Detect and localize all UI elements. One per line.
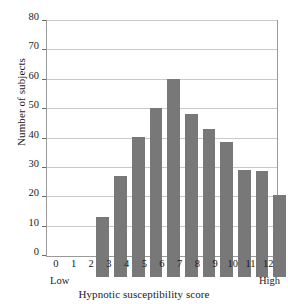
bar bbox=[185, 114, 198, 277]
bar bbox=[203, 129, 216, 277]
y-axis-tick: 70 bbox=[0, 49, 46, 50]
bar-slot bbox=[203, 42, 216, 277]
y-axis-tick-label: 30 bbox=[29, 159, 40, 170]
y-axis-tick-label: 10 bbox=[29, 218, 40, 229]
x-axis-tick-group: 0123456789101112 bbox=[47, 259, 277, 275]
y-axis-tick: 0 bbox=[0, 255, 46, 256]
bar bbox=[150, 108, 163, 277]
bar-slot bbox=[132, 42, 145, 277]
bar-slot bbox=[150, 42, 163, 277]
bar-slot bbox=[238, 42, 251, 277]
x-axis-tick-label: 3 bbox=[100, 259, 118, 270]
x-axis-anchor-low: Low bbox=[50, 275, 69, 286]
x-axis-tick-label: 7 bbox=[171, 259, 189, 270]
bar-slot bbox=[96, 42, 109, 277]
bar bbox=[132, 137, 145, 277]
x-axis-tick-label: 5 bbox=[135, 259, 153, 270]
bar-group bbox=[94, 42, 288, 277]
bar bbox=[220, 142, 233, 277]
x-axis-tick-label: 10 bbox=[224, 259, 242, 270]
bar-slot bbox=[273, 42, 286, 277]
y-axis-tick: 50 bbox=[0, 108, 46, 109]
y-axis-tick: 40 bbox=[0, 138, 46, 139]
y-axis-tick-label: 20 bbox=[29, 188, 40, 199]
bar bbox=[167, 79, 180, 277]
x-axis-anchor-high: High bbox=[259, 275, 280, 286]
bar-slot bbox=[185, 42, 198, 277]
bar-slot bbox=[220, 42, 233, 277]
y-axis-tick: 30 bbox=[0, 167, 46, 168]
x-axis-tick-label: 4 bbox=[118, 259, 136, 270]
y-axis-tick: 60 bbox=[0, 79, 46, 80]
x-axis-tick-label: 12 bbox=[259, 259, 277, 270]
y-axis-tick-label: 40 bbox=[29, 130, 40, 141]
x-axis-tick-label: 2 bbox=[82, 259, 100, 270]
y-axis-tick: 20 bbox=[0, 196, 46, 197]
y-axis-tick-label: 50 bbox=[29, 100, 40, 111]
x-axis-tick-label: 8 bbox=[189, 259, 207, 270]
x-axis-tick-label: 9 bbox=[206, 259, 224, 270]
x-axis-tick-label: 6 bbox=[153, 259, 171, 270]
plot-area bbox=[46, 20, 278, 257]
gridline bbox=[47, 20, 277, 21]
y-axis-tick-group: 01020304050607080 bbox=[0, 20, 46, 257]
y-axis-tick-label: 70 bbox=[29, 41, 40, 52]
y-axis-tick: 10 bbox=[0, 226, 46, 227]
x-axis-title: Hypnotic susceptibility score bbox=[0, 288, 288, 300]
y-axis-tick: 80 bbox=[0, 20, 46, 21]
x-axis-tick-label: 1 bbox=[65, 259, 83, 270]
y-axis-tick-label: 60 bbox=[29, 71, 40, 82]
x-axis-tick-label: 11 bbox=[242, 259, 260, 270]
y-axis-tick-label: 0 bbox=[34, 247, 39, 258]
y-axis-tick-label: 80 bbox=[29, 12, 40, 23]
bar-slot bbox=[114, 42, 127, 277]
bar-chart-figure: Number of subjects 01020304050607080 012… bbox=[0, 0, 288, 304]
x-axis-tick-label: 0 bbox=[47, 259, 65, 270]
bar-slot bbox=[256, 42, 269, 277]
bar-slot bbox=[167, 42, 180, 277]
